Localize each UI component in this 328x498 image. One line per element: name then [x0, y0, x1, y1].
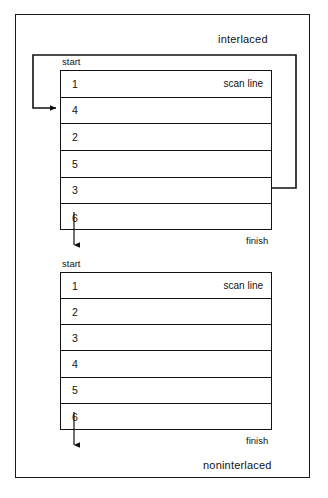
- noninterlaced-caption: noninterlaced: [203, 459, 272, 471]
- noninterlaced-scan-table: 1 scan line 2 3 4 5 6: [60, 272, 272, 430]
- scan-line-number: 6: [72, 212, 78, 223]
- table-row: 4: [61, 98, 271, 125]
- interlaced-start-label: start: [62, 56, 80, 67]
- scan-line-number: 3: [72, 333, 78, 344]
- scan-line-number: 3: [72, 185, 78, 196]
- scan-line-number: 5: [72, 159, 78, 170]
- table-row: 5: [61, 378, 271, 404]
- table-row: 1 scan line: [61, 71, 271, 98]
- table-row: 6: [61, 404, 271, 430]
- scan-line-note: scan line: [224, 79, 263, 89]
- noninterlaced-start-label: start: [62, 258, 80, 269]
- interlaced-scan-table: 1 scan line 4 2 5 3 6: [60, 70, 272, 230]
- scan-line-number: 4: [72, 105, 78, 116]
- table-row: 4: [61, 351, 271, 377]
- table-row: 1 scan line: [61, 273, 271, 299]
- noninterlaced-finish-label: finish: [246, 435, 268, 446]
- diagram-canvas: interlaced start 1 scan line 4 2 5 3 6 f…: [0, 0, 328, 498]
- table-row: 2: [61, 299, 271, 325]
- scan-line-number: 2: [72, 306, 78, 317]
- scan-line-note: scan line: [224, 281, 263, 291]
- scan-line-number: 4: [72, 359, 78, 370]
- table-row: 3: [61, 325, 271, 351]
- scan-line-number: 1: [72, 79, 78, 90]
- table-row: 5: [61, 151, 271, 178]
- interlaced-caption: interlaced: [218, 33, 268, 45]
- scan-line-number: 2: [72, 132, 78, 143]
- scan-line-number: 6: [72, 412, 78, 423]
- scan-line-number: 5: [72, 385, 78, 396]
- table-row: 2: [61, 124, 271, 151]
- table-row: 3: [61, 178, 271, 205]
- table-row: 6: [61, 204, 271, 231]
- interlaced-finish-label: finish: [246, 235, 268, 246]
- scan-line-number: 1: [72, 280, 78, 291]
